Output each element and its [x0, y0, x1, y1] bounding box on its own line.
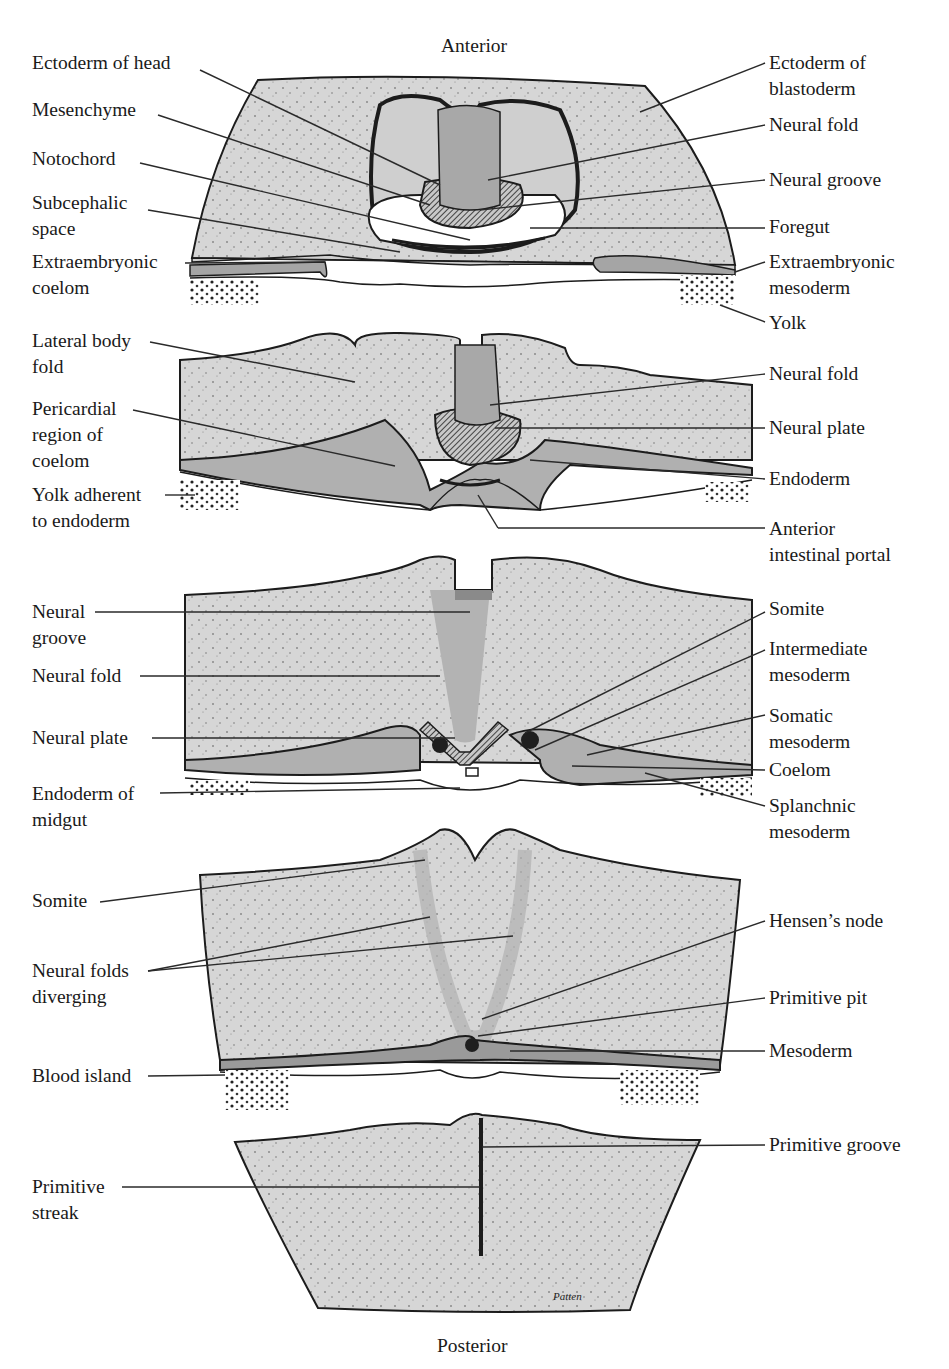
label-endoderm: Endoderm	[769, 466, 850, 492]
label-splanchnic-mesoderm: Splanchnic mesoderm	[769, 793, 856, 845]
label-somatic-mesoderm: Somatic mesoderm	[769, 703, 850, 755]
section-5-streak: Patten	[235, 1114, 700, 1312]
signature: Patten	[552, 1290, 582, 1302]
label-somite-3: Somite	[769, 596, 824, 622]
embryo-sections-figure: Patten	[0, 0, 949, 1369]
label-lateral-body-fold: Lateral body fold	[32, 328, 131, 380]
label-yolk-adherent: Yolk adherent to endoderm	[32, 482, 141, 534]
label-primitive-groove: Primitive groove	[769, 1132, 901, 1158]
label-neural-fold-1: Neural fold	[769, 112, 858, 138]
anterior-label: Anterior	[441, 34, 507, 58]
posterior-label: Posterior	[437, 1334, 507, 1358]
label-neural-plate-3: Neural plate	[32, 725, 128, 751]
label-intermediate-mesoderm: Intermediate mesoderm	[769, 636, 868, 688]
label-neural-fold-3: Neural fold	[32, 663, 121, 689]
label-pericardial-region: Pericardial region of coelom	[32, 396, 116, 474]
label-extraembryonic-mesoderm: Extraembryonic mesoderm	[769, 249, 895, 301]
label-endoderm-of-midgut: Endoderm of midgut	[32, 781, 134, 833]
label-primitive-streak: Primitive streak	[32, 1174, 105, 1226]
label-ectoderm-of-blastoderm: Ectoderm of blastoderm	[769, 50, 866, 102]
label-coelom: Coelom	[769, 757, 831, 783]
label-neural-fold-2: Neural fold	[769, 361, 858, 387]
label-ectoderm-of-head: Ectoderm of head	[32, 50, 171, 76]
label-neural-plate-2: Neural plate	[769, 415, 865, 441]
label-notochord: Notochord	[32, 146, 115, 172]
label-foregut: Foregut	[769, 214, 830, 240]
label-extraembryonic-coelom: Extraembryonic coelom	[32, 249, 158, 301]
label-blood-island: Blood island	[32, 1063, 131, 1089]
label-somite-4: Somite	[32, 888, 87, 914]
label-anterior-intestinal-portal: Anterior intestinal portal	[769, 516, 891, 568]
label-subcephalic-space: Subcephalic space	[32, 190, 127, 242]
label-neural-folds-diverging: Neural folds diverging	[32, 958, 129, 1010]
label-neural-groove-3: Neural groove	[32, 599, 86, 651]
label-primitive-pit: Primitive pit	[769, 985, 867, 1011]
section-4-node	[200, 829, 740, 1110]
section-1-head	[190, 77, 735, 305]
label-mesenchyme: Mesenchyme	[32, 97, 136, 123]
label-neural-groove-1: Neural groove	[769, 167, 881, 193]
label-yolk: Yolk	[769, 310, 806, 336]
label-mesoderm: Mesoderm	[769, 1038, 852, 1064]
label-hensens-node: Hensen’s node	[769, 908, 883, 934]
section-2-heart	[180, 333, 752, 510]
